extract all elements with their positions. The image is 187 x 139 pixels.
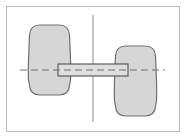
diagram-svg — [0, 0, 187, 139]
left-mass-body — [28, 25, 71, 95]
diagram-canvas: Two-mass rotor on a shaft, elevation vie… — [0, 0, 187, 139]
right-mass-body — [114, 46, 157, 116]
